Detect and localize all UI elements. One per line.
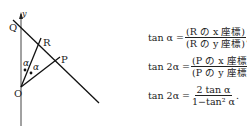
angle-marker-1 [24, 69, 27, 72]
equation-lhs: tan 2α = [148, 90, 190, 101]
equation-tan-2alpha-coords: tan 2α = (P の x 座標)(P の y 座標) , [148, 55, 247, 78]
label-Q: Q [9, 22, 17, 33]
punctuation: , [246, 32, 247, 43]
label-y: y [21, 9, 27, 18]
label-P: P [61, 54, 68, 65]
label-alpha-2: α [33, 62, 39, 72]
equation-lhs: tan α = [148, 32, 184, 43]
numerator: (R の x 座標) [185, 26, 246, 38]
numerator: 2 tan α [195, 84, 231, 96]
denominator: (R の y 座標) [185, 38, 246, 49]
denominator: (P の y 座標) [191, 67, 247, 78]
equation-lhs: tan 2α = [148, 61, 190, 72]
denominator: 1−tan² α [191, 96, 236, 107]
numerator: (P の x 座標) [191, 55, 247, 67]
angle-marker-2 [30, 72, 33, 75]
label-alpha-1: α [23, 58, 29, 68]
label-O: O [14, 88, 22, 99]
label-R: R [43, 37, 51, 48]
punctuation: . [236, 90, 239, 101]
equation-double-angle: tan 2α = 2 tan α1−tan² α . [148, 84, 239, 107]
equation-tan-alpha: tan α = (R の x 座標)(R の y 座標) , [148, 26, 247, 49]
